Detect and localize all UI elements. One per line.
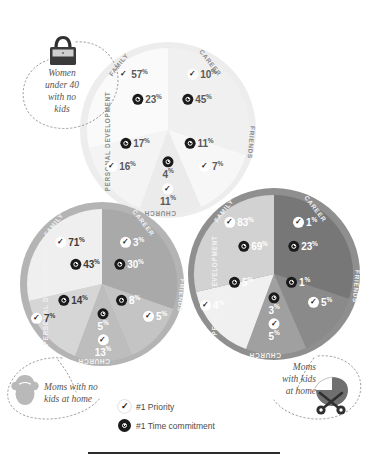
check-icon: ✓ xyxy=(120,236,131,247)
value-career-priority: ✓ 3% xyxy=(120,236,144,248)
clock-icon xyxy=(118,419,131,432)
clock-icon xyxy=(185,137,196,148)
clock-icon xyxy=(229,276,240,287)
legend-item-time-commitment: #1 Time commitment xyxy=(118,419,215,432)
infographic-canvas: FAMILY CAREER FRIENDS CHURCH PERSONAL DE… xyxy=(0,0,367,465)
sector-label-personal-development: PERSONAL DEVELOPMENT xyxy=(42,246,49,346)
check-icon: ✓ xyxy=(269,318,280,329)
legend-label-priority: #1 Priority xyxy=(136,402,174,412)
check-icon: ✓ xyxy=(308,296,319,307)
check-icon: ✓ xyxy=(118,400,131,413)
check-icon: ✓ xyxy=(143,310,154,321)
check-icon: ✓ xyxy=(200,299,211,310)
value-church-time: 5% xyxy=(98,308,109,331)
stroller-icon xyxy=(310,372,356,422)
check-icon: ✓ xyxy=(31,312,42,323)
value-career-time: 30% xyxy=(114,258,143,270)
value-career-time: 23% xyxy=(288,240,317,252)
check-icon: ✓ xyxy=(293,216,304,227)
value-church-priority: ✓ 5% xyxy=(269,318,280,341)
value-career-priority: ✓ 1% xyxy=(293,216,317,228)
value-friends-priority: ✓ 5% xyxy=(143,310,167,322)
clock-icon xyxy=(182,93,193,104)
check-icon: ✓ xyxy=(55,236,66,247)
value-personal-development-time: 14% xyxy=(58,294,87,306)
clock-icon xyxy=(132,93,143,104)
check-icon: ✓ xyxy=(224,216,235,227)
value-personal-development-priority: ✓ 16% xyxy=(106,160,135,172)
clock-icon xyxy=(163,156,174,167)
value-friends-priority: ✓ 7% xyxy=(199,160,223,172)
value-friends-time: 1% xyxy=(286,276,310,288)
clock-icon xyxy=(114,258,125,269)
clock-icon xyxy=(288,240,299,251)
value-career-priority: ✓ 10% xyxy=(187,68,216,80)
footer-divider xyxy=(88,452,280,454)
clock-icon xyxy=(58,294,69,305)
pie-moms-with-kids-at-home[interactable]: FAMILY CAREER FRIENDS CHURCH PERSONAL DE… xyxy=(186,186,362,362)
check-icon: ✓ xyxy=(106,160,117,171)
clock-icon xyxy=(98,308,109,319)
value-family-priority: ✓ 83% xyxy=(224,216,253,228)
value-church-time: 3% xyxy=(269,292,280,315)
value-personal-development-priority: ✓ 7% xyxy=(31,312,55,324)
value-personal-development-priority: ✓ 4% xyxy=(200,299,224,311)
caption-women-under-40: Women under 40 with no kids xyxy=(28,68,96,116)
value-friends-time: 8% xyxy=(116,294,140,306)
value-personal-development-time: 17% xyxy=(120,137,149,149)
value-family-priority: ✓ 71% xyxy=(55,236,84,248)
legend-item-priority: ✓ #1 Priority xyxy=(118,400,215,413)
value-career-time: 45% xyxy=(182,93,211,105)
clock-icon xyxy=(286,276,297,287)
pie-moms-no-kids-at-home[interactable]: FAMILY CAREER FRIENDS CHURCH PERSONAL DE… xyxy=(18,200,186,368)
clock-icon xyxy=(120,137,131,148)
value-family-time: 69% xyxy=(238,240,267,252)
check-icon: ✓ xyxy=(162,183,173,194)
value-personal-development-time: 5% xyxy=(229,276,253,288)
clock-icon xyxy=(70,258,81,269)
legend: ✓ #1 Priority #1 Time commitment xyxy=(118,400,215,438)
clock-icon xyxy=(116,294,127,305)
caption-moms-no-kids-at-home: Moms with no kids at home xyxy=(44,382,116,406)
clock-icon xyxy=(269,292,280,303)
value-friends-time: 11% xyxy=(185,137,214,149)
value-church-time: 4% xyxy=(163,156,174,179)
value-family-time: 43% xyxy=(70,258,99,270)
caption-moms-with-kids-at-home: Moms with kids at home xyxy=(258,362,316,398)
sector-label-personal-development: PERSONAL DEVELOPMENT xyxy=(211,236,218,336)
check-icon: ✓ xyxy=(97,334,108,345)
legend-label-time-commitment: #1 Time commitment xyxy=(136,421,215,431)
check-icon: ✓ xyxy=(187,68,198,79)
clock-icon xyxy=(238,240,249,251)
value-family-time: 23% xyxy=(132,93,161,105)
value-friends-priority: ✓ 5% xyxy=(308,296,332,308)
woman-icon xyxy=(7,372,43,412)
check-icon: ✓ xyxy=(199,160,210,171)
